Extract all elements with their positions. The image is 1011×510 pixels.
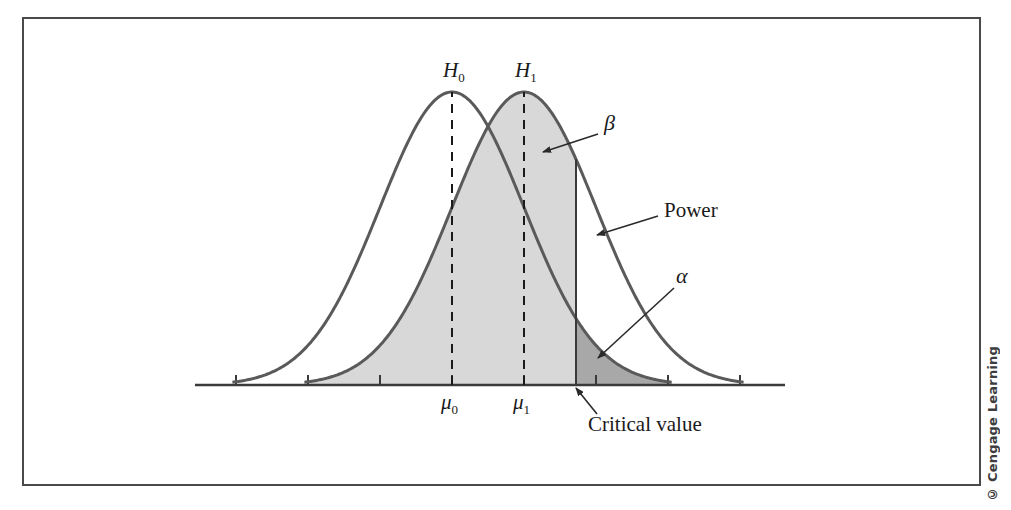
distribution-plot (0, 0, 1011, 510)
alpha-region (576, 319, 672, 386)
label-h0: H0 (443, 58, 465, 86)
label-mu0: μ0 (441, 390, 458, 418)
arrow-Power (597, 216, 658, 235)
label-beta: β (604, 110, 615, 136)
label-h1: H1 (515, 58, 537, 86)
figure-root: H0 H1 μ0 μ1 β α Power Critical value © C… (0, 0, 1011, 510)
label-mu1: μ1 (513, 390, 530, 418)
label-critical-value: Critical value (588, 412, 702, 437)
copyright-credit: © Cengage Learning (985, 322, 1009, 502)
label-alpha: α (676, 263, 688, 289)
label-power: Power (664, 198, 718, 223)
arrow-Critical value (576, 388, 597, 414)
